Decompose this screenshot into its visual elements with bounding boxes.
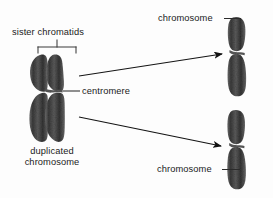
label-sister-chromatids: sister chromatids bbox=[12, 27, 84, 38]
label-duplicated-chromosome-line2: chromosome bbox=[25, 157, 80, 167]
label-chromosome-bottom: chromosome bbox=[157, 164, 212, 175]
chromosome-top-glyph bbox=[228, 17, 247, 96]
duplicated-chromosome-glyph bbox=[29, 54, 64, 142]
label-centromere: centromere bbox=[82, 86, 130, 97]
arrow-to-bottom-chromosome bbox=[79, 117, 221, 146]
label-duplicated-chromosome: duplicated chromosome bbox=[13, 146, 91, 168]
chromosome-bottom-glyph bbox=[227, 110, 246, 189]
label-chromosome-top: chromosome bbox=[158, 13, 213, 24]
arrow-to-top-chromosome bbox=[79, 54, 222, 76]
sister-chromatids-bracket bbox=[38, 40, 76, 53]
label-duplicated-chromosome-line1: duplicated bbox=[30, 146, 73, 156]
chromosome-duplication-figure: sister chromatids centromere duplicated … bbox=[0, 0, 273, 198]
